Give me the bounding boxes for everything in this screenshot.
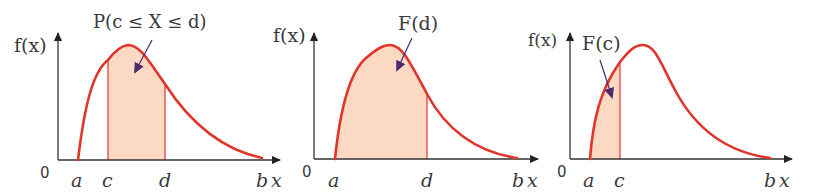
tick-c: c	[102, 169, 113, 191]
origin-label: 0	[302, 163, 312, 181]
annotation-label: P(c ≤ X ≤ d)	[93, 11, 207, 32]
tick-d: d	[159, 169, 171, 191]
tick-b: b	[764, 169, 776, 191]
panel-cdf-at-d: f(x) F(d) 0 a d b x	[273, 12, 538, 191]
pdf-diagram: f(x) P(c ≤ X ≤ d) 0 a c d b x f(x) F(d) …	[0, 0, 820, 195]
x-axis-label: x	[527, 169, 538, 191]
x-axis-label: x	[779, 169, 790, 191]
shaded-area	[335, 45, 427, 159]
pdf-curve	[78, 45, 262, 160]
tick-a: a	[71, 169, 82, 191]
origin-label: 0	[40, 164, 50, 182]
tick-a: a	[583, 169, 594, 191]
annotation-label: F(c)	[582, 32, 621, 54]
tick-a: a	[328, 169, 339, 191]
y-axis-label: f(x)	[528, 30, 557, 50]
panel-probability-between: f(x) P(c ≤ X ≤ d) 0 a c d b x	[14, 11, 282, 191]
tick-d: d	[421, 169, 433, 191]
tick-b: b	[512, 169, 524, 191]
annotation-label: F(d)	[398, 12, 438, 34]
tick-b: b	[256, 169, 268, 191]
tick-c: c	[614, 169, 625, 191]
x-axis-label: x	[271, 169, 282, 191]
origin-label: 0	[557, 163, 567, 181]
y-axis-label: f(x)	[273, 24, 306, 46]
shaded-area	[108, 45, 165, 160]
panel-cdf-at-c: f(x) F(c) 0 a c b x	[528, 30, 792, 191]
y-axis-label: f(x)	[14, 34, 47, 56]
